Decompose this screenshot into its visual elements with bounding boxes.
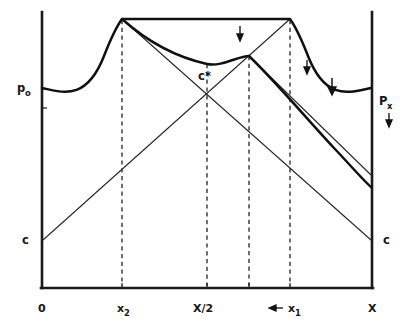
xtick-label-0: 0	[38, 302, 46, 315]
xtick-label-x1-sub: 1	[295, 308, 301, 318]
marginal-cost-ray-rising	[43, 19, 290, 240]
lower-envelope-left-branch	[122, 19, 249, 65]
label-price-x-sub: x	[387, 101, 393, 111]
xtick-label-X: X	[368, 302, 377, 315]
down-arrow-outer	[386, 113, 392, 127]
label-price-origin-sub: o	[25, 88, 31, 98]
marginal-cost-ray-falling	[122, 19, 371, 240]
down-arrow-lower	[328, 78, 336, 95]
label-cost-right: c	[383, 233, 390, 247]
xtick-label-xhalf: X/2	[193, 302, 213, 315]
lower-envelope-right-branch	[249, 56, 371, 187]
left-shift-arrow	[269, 305, 283, 311]
down-arrow-top	[237, 26, 243, 41]
figure-root: p o P x c c c* 0 x 2 X/2 x 1 X	[0, 0, 413, 327]
label-cost-left: c	[22, 233, 29, 247]
c-star-label: c*	[198, 69, 211, 83]
xtick-label-x2-sub: 2	[124, 308, 130, 318]
down-arrow-mid	[304, 60, 310, 74]
spatial-price-diagram: p o P x c c c* 0 x 2 X/2 x 1 X	[0, 0, 413, 327]
